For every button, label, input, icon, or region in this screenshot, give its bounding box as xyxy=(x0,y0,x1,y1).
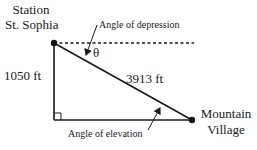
village-label-line2: Village xyxy=(195,123,257,136)
angle-of-elevation-label: Angle of elevation xyxy=(68,129,142,139)
village-label-line1: Mountain xyxy=(195,107,257,120)
angle-of-depression-label: Angle of depression xyxy=(99,20,180,30)
elevation-arrow-icon xyxy=(148,108,160,130)
station-point-dot xyxy=(51,40,57,46)
hypotenuse-length-label: 3913 ft xyxy=(126,72,163,85)
theta-symbol: θ xyxy=(93,46,99,59)
hypotenuse xyxy=(54,43,192,120)
vertical-side-length-label: 1050 ft xyxy=(4,69,41,82)
station-label: Station xyxy=(0,3,62,16)
village-label: Mountain Village xyxy=(195,107,257,136)
station-label-line1: Station xyxy=(0,3,62,16)
station-label-line2: St. Sophia xyxy=(5,18,58,31)
right-angle-marker xyxy=(54,113,61,120)
